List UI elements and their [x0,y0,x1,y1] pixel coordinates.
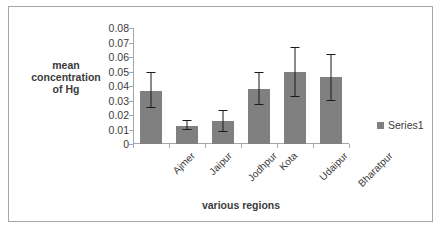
error-bar-cap-top [291,47,300,48]
error-bar [183,120,192,130]
plot-area [133,28,349,144]
error-bar [327,54,336,101]
error-bar-stem [259,72,260,105]
error-bar-stem [295,47,296,97]
x-axis-tick-labels: Ajmer Jaipur Jodhpur Kota Udaipur Bharat… [133,146,353,194]
bar-group [133,28,169,144]
y-axis-title: mean concentration of Hg [31,59,101,95]
bar-group [169,28,205,144]
chart-legend: Series1 [377,119,424,131]
bar-group [313,28,349,144]
y-axis-title-line-2: concentration [31,71,101,83]
y-tick-label: 0.05 [109,67,129,77]
chart-frame: 0.08 0.07 0.06 0.05 0.04 0.03 0.02 0.01 … [8,6,433,222]
x-axis-title: various regions [133,199,349,211]
y-tick-label: 0.03 [109,96,129,106]
y-axis-title-line-3: of Hg [31,83,101,95]
y-tick-label: 0.04 [109,81,129,91]
bar-group [277,28,313,144]
y-tick-label: 0.08 [109,23,129,33]
y-axis-tick-labels: 0.08 0.07 0.06 0.05 0.04 0.03 0.02 0.01 … [103,28,129,144]
bar-group [205,28,241,144]
y-tick-label: 0.06 [109,52,129,62]
error-bar-stem [223,110,224,132]
x-tick-label: Ajmer [171,150,197,176]
y-tick-label: 0.02 [109,110,129,120]
error-bar-cap-top [147,72,156,73]
bar-group [241,28,277,144]
legend-entry-series1: Series1 [388,119,424,131]
error-bar-cap-top [327,54,336,55]
error-bar-cap-bottom [291,96,300,97]
error-bar-cap-top [255,72,264,73]
error-bar [147,72,156,108]
x-tick-label: Bharatpur [356,150,395,189]
error-bar-stem [151,72,152,108]
error-bar-cap-top [183,120,192,121]
y-tick-label: 0.07 [109,38,129,48]
y-tick-label: 0.01 [109,125,129,135]
error-bar-cap-bottom [219,131,228,132]
x-tick-label: Udaipur [317,150,350,183]
x-tick-label: Kota [277,150,299,172]
x-tick-label: Jaipur [207,150,234,177]
error-bar-cap-bottom [147,107,156,108]
y-axis-title-line-1: mean [31,59,101,71]
error-bar [219,110,228,132]
error-bar-stem [331,54,332,101]
error-bar-cap-bottom [255,104,264,105]
error-bar [291,47,300,97]
x-tick-label: Jodhpur [246,150,279,183]
error-bar-cap-top [219,110,228,111]
error-bar-cap-bottom [183,129,192,130]
error-bar [255,72,264,105]
error-bar-cap-bottom [327,100,336,101]
legend-swatch-icon [377,122,384,129]
